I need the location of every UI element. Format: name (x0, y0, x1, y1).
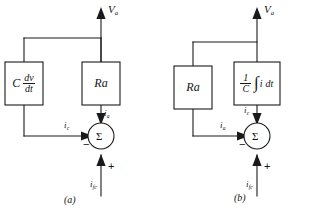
summing-junction-symbol: Σ (96, 131, 102, 142)
figure-block-diagrams: Va C dv dt Ra Σ ia ic − + ifc (a (0, 0, 312, 214)
sign-positive-input: + (264, 161, 270, 172)
panel-a-caption: (a) (64, 195, 76, 205)
label-current-ifc: ifc (246, 180, 253, 189)
panel-b: Va Ra 1 C ∫ i dt Σ ic ia − + ifc (156, 0, 312, 214)
math-fraction-dvdt: dv dt (22, 73, 35, 94)
label-output-va: Va (108, 4, 118, 15)
label-current-ia: ia (220, 121, 225, 130)
sign-negative-input: − (239, 139, 245, 150)
block-armature-resistance-math: Ra (82, 62, 120, 105)
panel-a-wiring (0, 0, 156, 214)
math-denominator: dt (23, 83, 35, 94)
block-capacitor-derivative-math: C dv dt (5, 62, 43, 105)
math-numerator: 1 (241, 73, 250, 83)
block-capacitor-integral-math: 1 C ∫ i dt (234, 62, 280, 105)
arrowhead-va (252, 7, 261, 19)
math-numerator: dv (22, 73, 35, 83)
sign-positive-input: + (108, 161, 114, 172)
panel-b-caption: (b) (234, 193, 246, 203)
label-current-ic: ic (244, 106, 249, 115)
math-integral-sign: ∫ (254, 76, 259, 90)
arrowhead-ifc (96, 154, 105, 166)
block-armature-resistance-math: Ra (174, 66, 212, 109)
math-coefficient-c: C (12, 76, 20, 91)
math-denominator: C (240, 83, 251, 94)
summing-junction-symbol: Σ (252, 131, 258, 142)
label-current-ia: ia (104, 109, 109, 118)
arrowhead-va (96, 7, 105, 19)
panel-a: Va C dv dt Ra Σ ia ic − + ifc (a (0, 0, 156, 214)
label-current-ifc: ifc (90, 180, 97, 189)
sign-negative-input: − (83, 139, 89, 150)
arrowhead-ifc (252, 154, 261, 166)
label-output-va: Va (264, 4, 274, 15)
math-integrand: i dt (260, 78, 274, 89)
label-current-ic: ic (64, 121, 69, 130)
math-fraction-one-over-c: 1 C (240, 73, 251, 94)
